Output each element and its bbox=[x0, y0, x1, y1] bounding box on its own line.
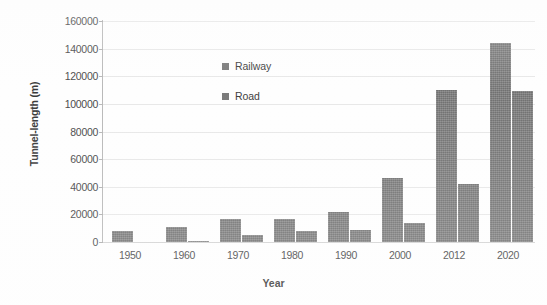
bar-group-1950 bbox=[112, 21, 154, 242]
x-axis-tick-label-1960: 1960 bbox=[156, 249, 212, 261]
bar-railway-2000 bbox=[382, 178, 403, 242]
bar-road-2012 bbox=[458, 184, 479, 242]
bar-railway-1970 bbox=[220, 219, 241, 242]
y-axis-tick-label: 60000 bbox=[36, 153, 98, 165]
x-axis-tick-label-2000: 2000 bbox=[372, 249, 428, 261]
y-axis-tick-mark bbox=[99, 132, 103, 133]
y-axis-tick-labels: 0200004000060000800001000001200001400001… bbox=[36, 15, 98, 242]
legend-label-road: Road bbox=[235, 90, 260, 102]
bar-group-1960 bbox=[166, 21, 208, 242]
axis-baseline bbox=[103, 242, 535, 243]
y-axis-tick-mark bbox=[99, 159, 103, 160]
x-axis-tick-label-1950: 1950 bbox=[102, 249, 158, 261]
legend-swatch-road bbox=[222, 93, 229, 100]
y-axis-tick-mark bbox=[99, 214, 103, 215]
plot-area bbox=[103, 21, 535, 242]
bar-road-1980 bbox=[296, 231, 317, 242]
bar-railway-1960 bbox=[166, 227, 187, 242]
y-axis-tick-label: 120000 bbox=[36, 70, 98, 82]
bar-road-1970 bbox=[242, 235, 263, 242]
y-axis-tick-mark bbox=[99, 21, 103, 22]
y-axis-tick-mark bbox=[99, 49, 103, 50]
x-axis-tick-label-2020: 2020 bbox=[480, 249, 536, 261]
bar-group-2000 bbox=[382, 21, 424, 242]
bar-railway-2020 bbox=[490, 43, 511, 242]
y-axis-tick-label: 100000 bbox=[36, 98, 98, 110]
bar-group-1970 bbox=[220, 21, 262, 242]
y-axis-tick-label: 140000 bbox=[36, 43, 98, 55]
bar-road-2020 bbox=[512, 91, 533, 242]
legend-entry-road: Road bbox=[222, 86, 332, 106]
x-axis-tick-label-2012: 2012 bbox=[426, 249, 482, 261]
bar-group-1990 bbox=[328, 21, 370, 242]
y-axis-tick-label: 40000 bbox=[36, 181, 98, 193]
legend-swatch-railway bbox=[222, 63, 229, 70]
y-axis-tick-mark bbox=[99, 187, 103, 188]
bar-road-1960 bbox=[188, 241, 209, 242]
y-axis-tick-label: 80000 bbox=[36, 126, 98, 138]
legend-entry-railway: Railway bbox=[222, 56, 332, 76]
y-axis-tick-label: 160000 bbox=[36, 15, 98, 27]
x-axis-tick-labels: 19501960197019801990200020122020 bbox=[103, 249, 535, 265]
y-axis-tick-label: 20000 bbox=[36, 208, 98, 220]
bar-railway-1990 bbox=[328, 212, 349, 242]
x-axis-tick-label-1980: 1980 bbox=[264, 249, 320, 261]
legend-label-railway: Railway bbox=[235, 60, 271, 72]
bar-chart: Tunnel-length (m) 0200004000060000800001… bbox=[0, 0, 547, 305]
bar-group-2020 bbox=[490, 21, 532, 242]
x-axis-title: Year bbox=[0, 277, 547, 289]
chart-legend: RailwayRoad bbox=[222, 56, 332, 116]
bar-road-2000 bbox=[404, 223, 425, 242]
bar-group-2012 bbox=[436, 21, 478, 242]
x-axis-tick-label-1990: 1990 bbox=[318, 249, 374, 261]
bar-railway-1980 bbox=[274, 219, 295, 242]
y-axis-tick-mark bbox=[99, 76, 103, 77]
bar-group-1980 bbox=[274, 21, 316, 242]
x-axis-tick-label-1970: 1970 bbox=[210, 249, 266, 261]
bar-road-1990 bbox=[350, 230, 371, 242]
bar-railway-1950 bbox=[112, 231, 133, 242]
bar-railway-2012 bbox=[436, 90, 457, 242]
y-axis-tick-mark bbox=[99, 104, 103, 105]
y-axis-tick-mark bbox=[99, 242, 103, 243]
y-axis-tick-label: 0 bbox=[36, 236, 98, 248]
